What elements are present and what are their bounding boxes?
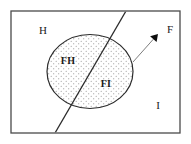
- set-diagram-figure: H FH FI I F: [0, 0, 191, 144]
- region-label-h: H: [39, 24, 47, 36]
- set-ellipse-f: [47, 35, 133, 109]
- region-label-f: F: [167, 23, 173, 35]
- diagram-canvas: H FH FI I F: [0, 0, 191, 144]
- region-label-i: I: [156, 99, 160, 111]
- region-label-fh: FH: [61, 55, 75, 66]
- region-label-fi: FI: [101, 78, 111, 89]
